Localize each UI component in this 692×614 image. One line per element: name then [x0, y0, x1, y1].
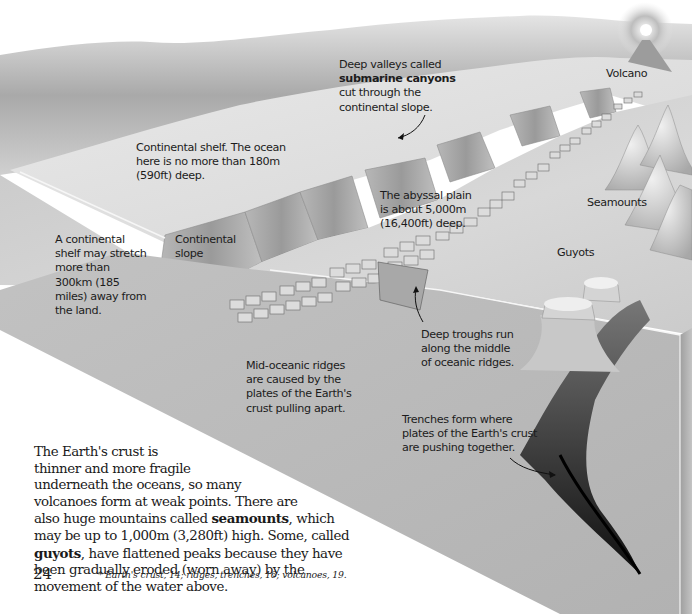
label-volcano: Volcano	[606, 67, 647, 81]
term-submarine-canyons: submarine canyons	[339, 72, 455, 85]
page-number: 24	[33, 565, 52, 583]
label-mid-oceanic-ridges: Mid-oceanic ridges are caused by the pla…	[246, 359, 352, 416]
label-continental-slope: Continental slope	[175, 233, 236, 261]
term-guyots: guyots	[34, 545, 81, 561]
label-continental-shelf: Continental shelf. The ocean here is no …	[136, 141, 286, 184]
label-trenches: Trenches form where plates of the Earth'…	[402, 413, 537, 456]
label-deep-troughs: Deep troughs run along the middle of oce…	[421, 328, 514, 371]
book-page: Deep valleys called submarine canyons cu…	[0, 0, 692, 614]
label-seamounts: Seamounts	[587, 196, 647, 210]
label-submarine-canyons: Deep valleys called submarine canyons cu…	[339, 58, 455, 115]
term-seamounts: seamounts	[212, 510, 289, 526]
cross-reference-footnote: * Earth's crust, 14; ridges, trenches, 1…	[98, 569, 347, 580]
label-guyots: Guyots	[557, 246, 594, 260]
label-shelf-extent: A continental shelf may stretch more tha…	[55, 233, 146, 318]
cross-section-side-face	[680, 328, 692, 614]
label-abyssal-plain: The abyssal plain is about 5,000m (16,40…	[380, 189, 471, 232]
